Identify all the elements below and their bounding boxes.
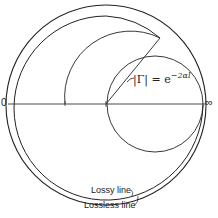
reflection-arc	[65, 31, 160, 104]
formula-exponent: −2αl	[171, 71, 191, 80]
lossy-spiral	[14, 16, 203, 200]
smith-chart-diagram: 0 ∞ |Γ| = e−2αl Lossy line Lossless line	[0, 0, 218, 218]
infinity-label: ∞	[205, 96, 213, 108]
lossy-leader	[131, 190, 133, 196]
lossy-line-label: Lossy line	[91, 185, 131, 195]
zero-label: 0	[1, 97, 7, 108]
lossless-line-label: Lossless line	[84, 200, 136, 210]
reflection-formula: |Γ| = e−2αl	[133, 71, 191, 86]
formula-lhs: |Γ| = e	[133, 73, 171, 86]
